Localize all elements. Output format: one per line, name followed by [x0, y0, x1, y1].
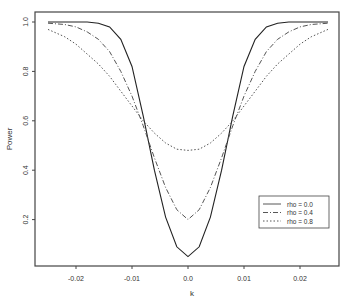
y-tick-label: 1.0	[22, 17, 29, 27]
x-axis-label: k	[190, 289, 195, 298]
axis-ticks: -0.02-0.010.00.010.020.20.40.60.81.0	[22, 17, 307, 282]
y-axis-label: Power	[5, 127, 14, 150]
y-tick-label: 0.6	[22, 116, 29, 126]
x-tick-label: 0.01	[237, 275, 251, 282]
x-tick-label: 0.02	[293, 275, 307, 282]
power-chart: -0.02-0.010.00.010.020.20.40.60.81.0 k P…	[0, 0, 352, 304]
legend-label: rho = 0.0	[287, 201, 313, 208]
legend-label: rho = 0.4	[287, 209, 313, 216]
legend-label: rho = 0.8	[287, 218, 313, 225]
series-line	[48, 29, 328, 150]
y-tick-label: 0.2	[22, 215, 29, 225]
y-tick-label: 0.4	[22, 165, 29, 175]
chart-canvas: -0.02-0.010.00.010.020.20.40.60.81.0 k P…	[0, 0, 352, 304]
x-tick-label: -0.02	[68, 275, 84, 282]
legend: rho = 0.0rho = 0.4rho = 0.8	[259, 196, 329, 228]
series-line	[48, 23, 328, 219]
y-tick-label: 0.8	[22, 66, 29, 76]
x-tick-label: -0.01	[124, 275, 140, 282]
x-tick-label: 0.0	[183, 275, 193, 282]
